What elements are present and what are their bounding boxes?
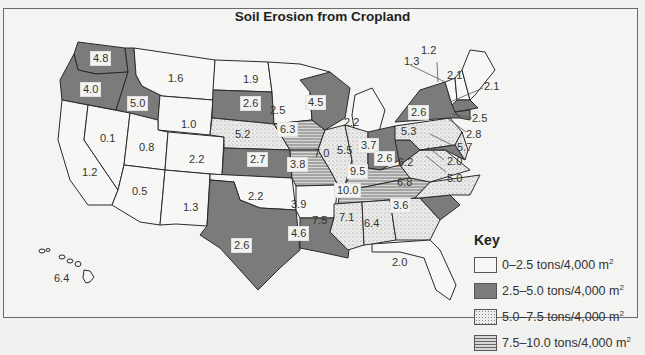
label-wisconsin: 4.5 [305, 95, 326, 110]
legend-title: Key [474, 232, 631, 248]
label-arkansas: 3.9 [291, 198, 306, 211]
label-maryland: 5.0 [447, 172, 462, 185]
label-minnesota: 2.5 [270, 104, 285, 117]
label-west-virginia: 2.6 [374, 151, 395, 166]
legend-item-7-5-10-0: 7.5–10.0 tons/4,000 m2 [474, 330, 631, 355]
label-indiana: 5.5 [337, 144, 352, 157]
label-iowa: 6.3 [277, 122, 298, 137]
legend-item-0-2-5: 0–2.5 tons/4,000 m2 [474, 252, 631, 278]
state-new-mexico [160, 170, 210, 226]
label-connecticut: 2.8 [466, 128, 481, 141]
swatch-dark [474, 283, 497, 299]
label-tennessee: 10.0 [334, 183, 361, 198]
label-oregon: 4.0 [80, 82, 101, 97]
legend-item-2-5-5-0: 2.5–5.0 tons/4,000 m2 [474, 278, 631, 304]
label-hawaii: 6.4 [54, 272, 69, 285]
label-louisiana: 4.6 [288, 226, 309, 241]
label-oklahoma: 2.2 [248, 190, 263, 203]
label-new-hampshire: 1.2 [421, 44, 436, 57]
label-texas: 2.6 [231, 238, 252, 253]
label-washington: 4.8 [90, 51, 111, 66]
label-illinois: 7.0 [314, 147, 329, 160]
label-florida: 2.0 [392, 256, 407, 269]
label-massachusetts: 2.1 [484, 80, 499, 93]
label-rhode-island: 2.5 [472, 112, 487, 125]
label-missouri: 3.8 [287, 157, 308, 172]
legend-item-5-0-7-5: 5.0–7.5 tons/4,000 m2 [474, 304, 631, 330]
label-alabama: 7.1 [339, 211, 354, 224]
swatch-light [474, 257, 497, 273]
label-new-york: 2.6 [408, 105, 429, 120]
label-north-carolina: 6.8 [397, 176, 412, 189]
label-vermont: 1.3 [404, 55, 419, 68]
label-virginia: 6.2 [398, 156, 413, 169]
label-delaware: 2.0 [447, 155, 462, 168]
swatch-dotted [474, 309, 497, 325]
label-maine: 2.1 [447, 69, 462, 82]
label-nebraska: 5.2 [235, 128, 250, 141]
label-pennsylvania: 5.3 [401, 125, 416, 138]
label-new-mexico: 1.3 [183, 201, 198, 214]
label-kansas: 2.7 [247, 152, 268, 167]
label-nevada: 0.1 [100, 132, 115, 145]
swatch-striped [474, 335, 497, 351]
label-montana: 1.6 [168, 72, 183, 85]
label-wyoming: 1.0 [181, 118, 196, 131]
label-georgia: 6.4 [364, 217, 379, 230]
label-arizona: 0.5 [132, 185, 147, 198]
label-idaho: 5.0 [127, 96, 148, 111]
label-california: 1.2 [82, 166, 97, 179]
label-michigan: 2.2 [344, 116, 359, 129]
label-new-jersey: 5.7 [457, 141, 472, 154]
legend: Key 0–2.5 tons/4,000 m2 2.5–5.0 tons/4,0… [474, 232, 631, 355]
label-south-dakota: 2.6 [240, 96, 261, 111]
label-kentucky: 9.5 [347, 164, 368, 179]
label-utah: 0.8 [139, 141, 154, 154]
label-colorado: 2.2 [189, 153, 204, 166]
state-florida [372, 240, 456, 300]
label-mississippi: 7.5 [312, 214, 327, 227]
label-south-carolina: 3.6 [390, 198, 411, 213]
label-north-dakota: 1.9 [243, 73, 258, 86]
